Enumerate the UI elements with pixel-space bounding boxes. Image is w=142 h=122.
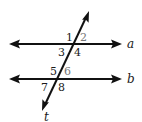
angle-label-1: 1	[66, 31, 73, 44]
diagram-canvas: a b t 1 2 3 4 5 6 7 8	[0, 0, 142, 122]
parallel-lines-diagram: a b t 1 2 3 4 5 6 7 8	[0, 0, 142, 122]
angle-label-5: 5	[50, 65, 57, 78]
background	[0, 0, 142, 122]
angle-label-4: 4	[74, 46, 81, 59]
line-label-a: a	[127, 37, 134, 51]
angle-label-8: 8	[58, 81, 65, 94]
line-label-t: t	[44, 110, 49, 122]
angle-label-6: 6	[64, 65, 71, 78]
angle-label-2: 2	[80, 31, 87, 44]
line-label-b: b	[127, 72, 135, 86]
angle-label-3: 3	[58, 46, 65, 59]
angle-label-7: 7	[41, 81, 48, 94]
